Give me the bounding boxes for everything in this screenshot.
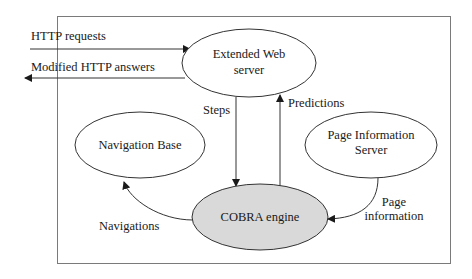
navigation-base-label: Navigation Base [99,138,182,152]
architecture-diagram: Extended Web server Navigation Base Page… [0,0,472,279]
steps-label: Steps [203,103,230,117]
extended-web-server-node: Extended Web server [182,29,316,97]
navigations-label: Navigations [99,219,160,233]
predictions-label: Predictions [288,96,344,110]
page-information-server-node: Page Information Server [305,112,437,178]
navigations-arrow [124,182,193,220]
page-information-server-label-line1: Page Information [327,128,415,142]
page-information-server-label-line2: Server [355,143,388,157]
navigation-base-node: Navigation Base [75,112,205,178]
cobra-engine-node: COBRA engine [192,184,328,250]
cobra-engine-label: COBRA engine [221,210,300,224]
extended-web-server-label-line2: server [234,63,265,77]
http-requests-label: HTTP requests [31,29,106,43]
page-information-label-line1: Page [382,195,407,209]
page-information-label-line2: information [364,209,424,223]
modified-http-answers-label: Modified HTTP answers [31,60,155,74]
extended-web-server-label-line1: Extended Web [213,47,286,61]
